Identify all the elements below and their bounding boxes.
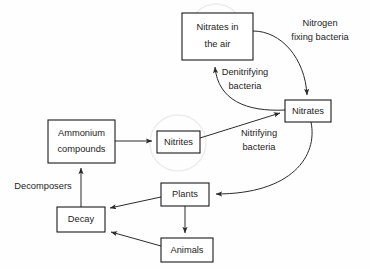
node-animals[interactable]: Animals xyxy=(161,238,213,262)
diagram-canvas: Nitrates in the air Nitrates Ammonium co… xyxy=(0,0,370,269)
node-label-decay: Decay xyxy=(68,214,95,224)
node-label-ammonium-compounds-line2: compounds xyxy=(57,144,105,154)
node-label-nitrates-in-the-air-line1: Nitrates in xyxy=(197,22,239,32)
node-label-nitrites: Nitrites xyxy=(164,137,193,147)
edge-label-nitrifying-bacteria-line1: Nitrifying xyxy=(241,128,277,138)
edge-label-denitrifying-bacteria: Denitrifying bacteria xyxy=(222,67,269,91)
node-nitrates-in-the-air[interactable]: Nitrates in the air xyxy=(182,13,253,60)
edge-label-denitrifying-bacteria-line2: bacteria xyxy=(228,81,262,91)
edge-label-denitrifying-bacteria-line1: Denitrifying xyxy=(222,67,269,77)
edge-animals-to-decay xyxy=(111,232,161,246)
node-label-plants: Plants xyxy=(172,189,198,199)
node-nitrites[interactable]: Nitrites xyxy=(157,131,200,153)
edge-label-nitrogen-fixing-bacteria: Nitrogen fixing bacteria xyxy=(291,18,349,42)
node-ammonium-compounds[interactable]: Ammonium compounds xyxy=(48,120,115,163)
node-nitrates[interactable]: Nitrates xyxy=(285,100,331,122)
edge-label-nitrogen-fixing-bacteria-line1: Nitrogen xyxy=(302,18,337,28)
node-label-ammonium-compounds-line1: Ammonium xyxy=(58,128,105,138)
edge-label-nitrogen-fixing-bacteria-line2: fixing bacteria xyxy=(291,32,349,42)
nitrogen-cycle-diagram: Nitrates in the air Nitrates Ammonium co… xyxy=(0,0,370,269)
edge-label-nitrifying-bacteria: Nitrifying bacteria xyxy=(241,128,277,152)
node-decay[interactable]: Decay xyxy=(57,207,105,232)
edge-label-decomposers: Decomposers xyxy=(14,181,72,191)
node-label-nitrates-in-the-air-line2: the air xyxy=(205,39,231,49)
node-plants[interactable]: Plants xyxy=(161,183,209,206)
node-label-animals: Animals xyxy=(170,245,203,255)
edge-plants-to-decay xyxy=(110,197,161,208)
node-label-nitrates: Nitrates xyxy=(292,106,324,116)
edge-label-decomposers-line1: Decomposers xyxy=(14,181,72,191)
edge-label-nitrifying-bacteria-line2: bacteria xyxy=(242,142,276,152)
